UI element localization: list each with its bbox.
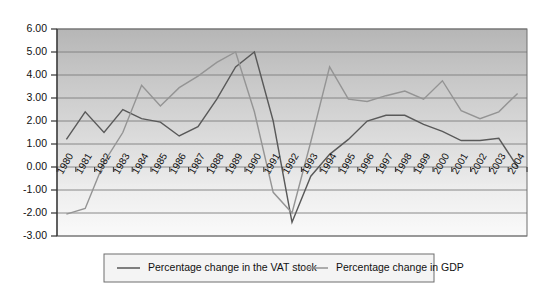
legend: Percentage change in the VAT stock Perce…	[104, 254, 464, 282]
y-axis-tick-labels: 6.00 5.00 4.00 3.00 2.00 1.00 0.00 -1.00…	[23, 22, 47, 241]
y-axis-ticks	[51, 29, 57, 236]
chart-container: 6.00 5.00 4.00 3.00 2.00 1.00 0.00 -1.00…	[0, 0, 539, 292]
legend-label-gdp: Percentage change in GDP	[336, 261, 464, 273]
y-tick-label: 2.00	[27, 114, 48, 126]
y-tick-label: 1.00	[27, 137, 48, 149]
plot-background-lower	[57, 184, 527, 236]
y-tick-label: 6.00	[27, 22, 48, 34]
y-tick-label: 5.00	[27, 45, 48, 57]
legend-label-vat: Percentage change in the VAT stock	[148, 261, 317, 273]
y-tick-label: -1.00	[23, 183, 47, 195]
y-tick-label: 0.00	[27, 160, 48, 172]
line-chart: 6.00 5.00 4.00 3.00 2.00 1.00 0.00 -1.00…	[0, 0, 539, 292]
y-tick-label: 4.00	[27, 68, 48, 80]
y-tick-label: -3.00	[23, 229, 47, 241]
y-tick-label: 3.00	[27, 91, 48, 103]
y-tick-label: -2.00	[23, 206, 47, 218]
